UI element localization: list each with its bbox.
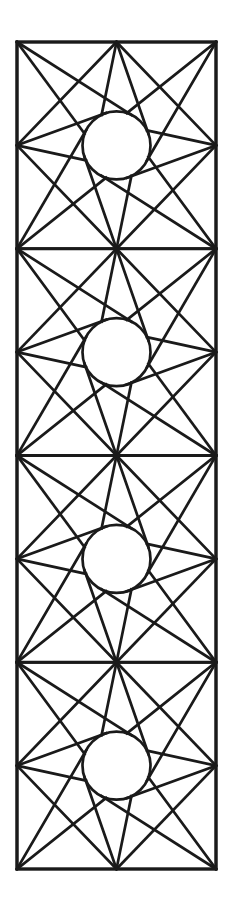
star-panel-artwork [0, 0, 233, 909]
panel-root [0, 0, 233, 909]
